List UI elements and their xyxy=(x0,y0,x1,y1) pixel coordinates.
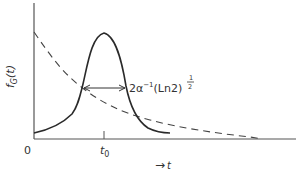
t0-label: t0 xyxy=(100,144,109,159)
origin-label: 0 xyxy=(24,144,31,157)
fwhm-arrow xyxy=(84,85,125,91)
svg-text:2: 2 xyxy=(188,83,192,91)
y-axis-label: fG(t) xyxy=(4,65,19,88)
svg-text:1: 1 xyxy=(189,74,193,82)
fwhm-exponent-half: 1 2 xyxy=(187,74,194,91)
fwhm-label: 2α−1(Ln2) xyxy=(129,81,182,95)
x-axis-label: →t xyxy=(155,158,172,172)
chart-figure: 2α−1(Ln2) 1 2 fG(t) 0 t0 →t xyxy=(0,0,300,176)
